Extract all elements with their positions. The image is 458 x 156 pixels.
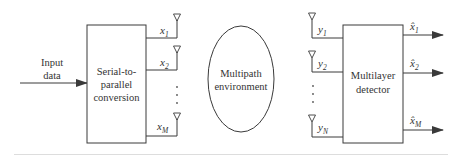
tx-label-x1: x1 (159, 24, 169, 39)
detector-label-line2: detector (356, 84, 390, 95)
antenna-icon (309, 51, 316, 58)
rx-label-yn: yN (317, 121, 329, 136)
antenna-icon (174, 113, 181, 120)
output-label-xhat2: x̂2 (409, 57, 419, 72)
antenna-icon (309, 115, 316, 122)
output-label-xhatm: x̂M (409, 114, 422, 129)
detector-label-line1: Multilayer (351, 70, 396, 81)
sp-label-line2: parallel (101, 79, 133, 90)
antenna-icon (174, 46, 181, 53)
channel-label-line2: environment (214, 81, 267, 92)
multipath-environment (208, 26, 274, 132)
tx-label-x2: x2 (159, 56, 169, 71)
output-label-xhat1: x̂1 (409, 20, 419, 35)
tx-ellipsis-dots (176, 86, 178, 104)
input-label-line1: Input (41, 57, 63, 68)
tx-label-xm: xM (156, 120, 169, 135)
rx-ellipsis-dots (312, 85, 314, 103)
channel-label-line1: Multipath (220, 68, 262, 79)
antenna-icon (309, 13, 316, 20)
mimo-system-diagram: Input data Serial-to- parallel conversio… (0, 0, 458, 156)
input-label-line2: data (43, 70, 61, 81)
sp-label-line1: Serial-to- (97, 66, 137, 77)
sp-label-line3: conversion (93, 92, 140, 103)
antenna-icon (174, 14, 181, 21)
rx-label-y2: y2 (317, 57, 327, 72)
rx-label-y1: y1 (317, 23, 327, 38)
